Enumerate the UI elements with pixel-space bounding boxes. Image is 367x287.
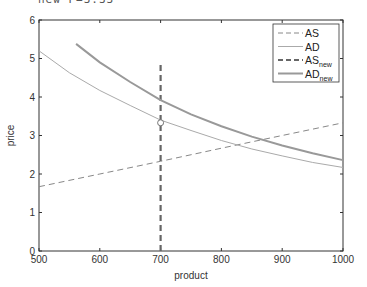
legend: ASADASnewADnew	[273, 24, 339, 82]
x-tick-label: 600	[91, 254, 108, 265]
x-axis-label: product	[174, 270, 208, 281]
equilibrium-marker	[158, 120, 164, 126]
y-tick-label: 6	[29, 15, 35, 26]
y-axis-label: price	[5, 124, 16, 146]
legend-label-as: AS	[305, 27, 319, 39]
x-tick-label: 700	[152, 254, 169, 265]
y-tick-label: 2	[29, 169, 35, 180]
y-tick-label: 4	[29, 92, 35, 103]
y-tick-label: 0	[29, 246, 35, 257]
legend-label-ad: AD	[305, 41, 320, 53]
x-tick-label: 800	[213, 254, 230, 265]
x-tick-label: 900	[274, 254, 291, 265]
y-tick-label: 1	[29, 207, 35, 218]
y-tick-label: 5	[29, 53, 35, 64]
y-tick-label: 3	[29, 130, 35, 141]
series-as	[39, 123, 343, 187]
price-product-chart: 50060070080090010000123456productpriceAS…	[0, 0, 367, 287]
x-tick-label: 1000	[332, 254, 355, 265]
